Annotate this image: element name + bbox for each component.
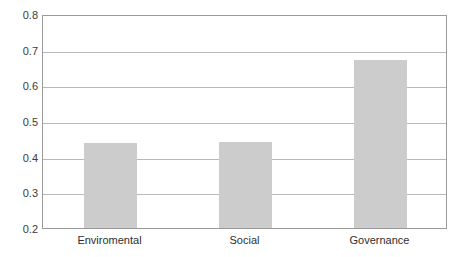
y-tick-label: 0.3: [8, 188, 38, 199]
x-tick-label: Enviromental: [77, 235, 141, 246]
y-tick-label: 0.7: [8, 46, 38, 57]
gridline: [43, 52, 446, 53]
bar: [219, 142, 272, 228]
x-tick-label: Governance: [350, 235, 410, 246]
bar-chart: 0.8 0.7 0.6 0.5 0.4 0.3 0.2 Enviromental…: [0, 0, 457, 257]
bar: [354, 60, 407, 228]
y-tick-label: 0.2: [8, 224, 38, 235]
y-tick-label: 0.4: [8, 153, 38, 164]
y-tick-label: 0.6: [8, 81, 38, 92]
bar: [84, 143, 137, 228]
y-tick-label: 0.8: [8, 10, 38, 21]
x-tick-label: Social: [230, 235, 260, 246]
plot-area: [42, 15, 447, 229]
y-tick-label: 0.5: [8, 117, 38, 128]
